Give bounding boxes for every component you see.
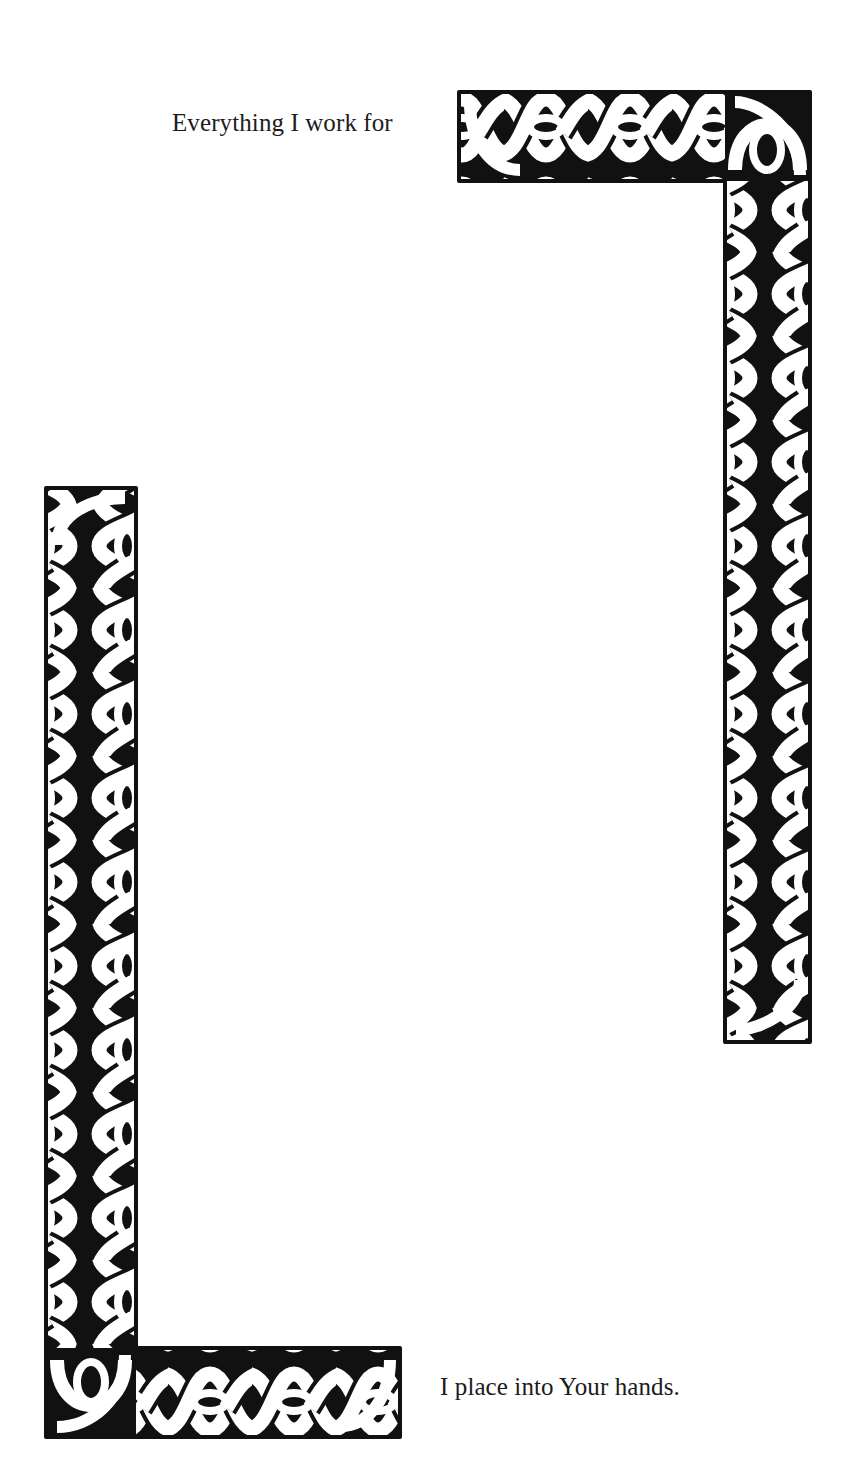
book-page: Everything I work for I place into Your … <box>0 0 864 1483</box>
caption-bottom-text: I place into Your hands. <box>440 1372 680 1402</box>
caption-top-text: Everything I work for <box>172 108 393 138</box>
knotwork-frames <box>0 0 864 1483</box>
knotwork-frame-top-right <box>459 92 810 1042</box>
knotwork-frame-bottom-left <box>46 488 400 1437</box>
